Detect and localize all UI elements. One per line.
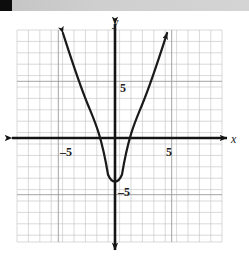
graph-canvas: –5 5 5 –5 x y	[0, 0, 249, 262]
x-tick-label-negative-5: –5	[59, 145, 72, 159]
y-axis-label: y	[112, 15, 119, 29]
y-tick-label-positive-5: 5	[120, 81, 126, 95]
x-tick-label-positive-5: 5	[166, 145, 172, 159]
y-tick-label-negative-5: –5	[117, 185, 130, 199]
coordinate-graph-figure: –5 5 5 –5 x y	[0, 0, 249, 262]
x-axis-label: x	[230, 132, 237, 146]
